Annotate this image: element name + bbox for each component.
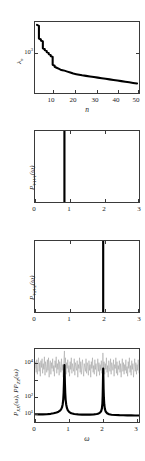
panel1-xticklabel-1: 20 xyxy=(66,96,80,104)
panel4-ylabel: PXX(ω), PPZZ(ω) xyxy=(12,369,20,416)
panel3-axes xyxy=(34,240,140,313)
panel2-xtick-3 xyxy=(138,199,139,202)
panel4-xtick-3 xyxy=(137,419,138,422)
panel1-ytick-right-1000 xyxy=(136,53,139,54)
panel1-ylabel-subscript: n xyxy=(19,59,24,61)
panel-pv2v2-spectrum: 0 1 2 3 PV2V2(ω) xyxy=(0,230,145,340)
panel4-ylabel-arg-1: (ω), P xyxy=(12,388,20,405)
panel1-xticklabel-3: 40 xyxy=(109,96,123,104)
eigenvalue-decay-curve xyxy=(37,25,137,84)
panel3-xtick-3 xyxy=(138,309,139,312)
panel1-ylabel-symbol: λ xyxy=(15,61,23,64)
panel3-xticklabel-3: 3 xyxy=(132,315,145,323)
panel3-ylabel: PV2V2(ω) xyxy=(28,275,36,300)
panel1-xticklabel-2: 30 xyxy=(88,96,102,104)
panel2-xticklabel-2: 2 xyxy=(97,205,111,213)
panel3-ylabel-arg: (ω) xyxy=(28,275,36,285)
panel1-ytick-1000 xyxy=(35,53,38,54)
panel1-xtick-30 xyxy=(97,90,98,93)
panel2-ylabel-subscript: V1V1 xyxy=(32,175,37,186)
panel4-xtick-0 xyxy=(35,419,36,422)
panel2-xticklabel-0: 0 xyxy=(27,205,41,213)
panel3-xtick-1 xyxy=(70,309,71,312)
panel1-yticklabel-1000: 103 xyxy=(17,48,33,55)
panel2-xtick-1 xyxy=(70,199,71,202)
panel4-ylabel-symbol-2: P xyxy=(12,384,20,388)
panel4-axes xyxy=(34,348,140,423)
panel4-xtick-2 xyxy=(103,419,104,422)
panel1-xtick-10 xyxy=(53,90,54,93)
panel2-curve-svg xyxy=(35,131,139,202)
panel3-ylabel-subscript: V2V2 xyxy=(32,285,37,296)
panel4-ylabel-subscript-1: XX xyxy=(16,406,21,412)
panel1-ytick-exponent: 3 xyxy=(31,47,33,52)
panel3-xtick-top-1 xyxy=(70,241,71,244)
panel2-xtick-top-2 xyxy=(105,131,106,134)
panel4-xticklabel-0: 0 xyxy=(27,425,41,433)
panel2-xticklabel-3: 3 xyxy=(132,205,145,213)
panel1-xtick-50 xyxy=(138,90,139,93)
panel4-ytick-1e4 xyxy=(35,363,38,364)
panel4-ylabel-arg-2: (ω) xyxy=(12,369,20,379)
panel3-ylabel-symbol: P xyxy=(28,296,36,300)
panel4-ylabel-symbol-1: P xyxy=(12,412,20,416)
panel3-xticklabel-0: 0 xyxy=(27,315,41,323)
panel4-xticklabel-3: 3 xyxy=(129,425,143,433)
panel-pxx-pzz-spectrum: 10⁴ 10² 10¹ 0 1 2 3 PXX(ω), PPZZ(ω) ω xyxy=(0,340,145,461)
panel3-xtick-0 xyxy=(35,309,36,312)
panel2-ylabel-arg: (ω) xyxy=(28,165,36,175)
panel4-ytick-1e1 xyxy=(35,414,38,415)
panel1-axes xyxy=(34,21,140,94)
panel3-xtick-2 xyxy=(105,309,106,312)
panel4-ytick-1e3 xyxy=(35,380,38,381)
panel-pv1v1-spectrum: 0 1 2 3 PV1V1(ω) xyxy=(0,120,145,230)
panel4-yticklabel-1e2: 10² xyxy=(18,392,33,399)
panel4-xlabel: ω xyxy=(77,434,97,443)
panel1-ylabel: λn xyxy=(15,59,23,64)
panel3-xticklabel-1: 1 xyxy=(62,315,76,323)
panel2-ylabel: PV1V1(ω) xyxy=(28,165,36,190)
panel-eigenvalue-spectrum: 10 20 30 40 50 103 λn n xyxy=(0,0,145,120)
panel2-xtick-2 xyxy=(105,199,106,202)
panel4-xticklabel-1: 1 xyxy=(61,425,75,433)
panel1-xlabel: n xyxy=(77,105,97,114)
panel2-xtick-0 xyxy=(35,199,36,202)
panel1-xticklabel-0: 10 xyxy=(44,96,58,104)
panel4-curve-svg xyxy=(35,349,139,422)
panel2-ylabel-symbol: P xyxy=(28,186,36,190)
panel3-curve-svg xyxy=(35,241,139,312)
panel1-xtick-20 xyxy=(75,90,76,93)
panel2-xticklabel-1: 1 xyxy=(62,205,76,213)
figure-panel-stack: 10 20 30 40 50 103 λn n 0 1 2 3 xyxy=(0,0,145,461)
panel4-ylabel-subscript-2: ZZ xyxy=(16,379,21,384)
panel4-xtick-1 xyxy=(69,419,70,422)
noisy-spectrum-trace xyxy=(35,351,139,377)
panel1-xtick-40 xyxy=(118,90,119,93)
panel4-yticklabel-1e4: 10⁴ xyxy=(18,358,33,365)
panel4-xticklabel-2: 2 xyxy=(95,425,109,433)
panel2-xtick-top-1 xyxy=(70,131,71,134)
panel3-xticklabel-2: 2 xyxy=(97,315,111,323)
panel4-ytick-1e2 xyxy=(35,397,38,398)
panel2-axes xyxy=(34,130,140,203)
panel1-xticklabel-4: 50 xyxy=(129,96,143,104)
panel3-xtick-top-2 xyxy=(105,241,106,244)
panel1-curve-svg xyxy=(35,22,139,93)
